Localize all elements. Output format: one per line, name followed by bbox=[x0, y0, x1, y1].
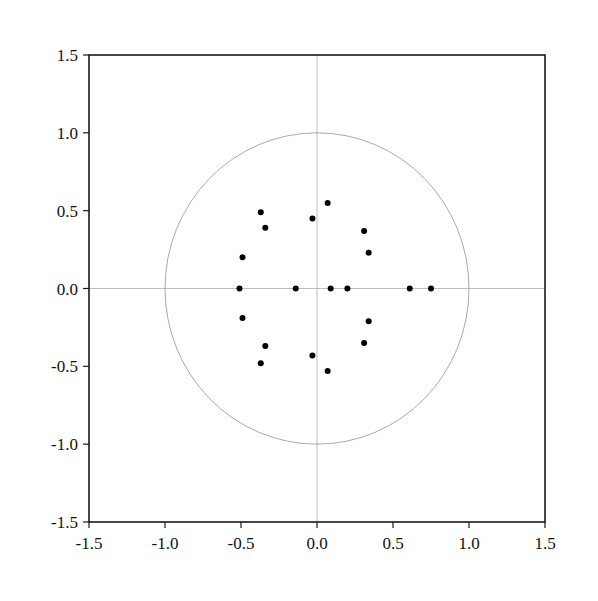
x-tick-label: 0.0 bbox=[306, 534, 327, 553]
y-tick-label: 1.5 bbox=[57, 46, 78, 65]
data-point bbox=[366, 250, 372, 256]
data-point bbox=[344, 286, 350, 292]
x-tick-label: 1.5 bbox=[534, 534, 555, 553]
data-point bbox=[258, 360, 264, 366]
data-point bbox=[407, 286, 413, 292]
data-points bbox=[236, 200, 434, 374]
data-point bbox=[262, 343, 268, 349]
data-point bbox=[361, 340, 367, 346]
x-tick-label: 1.0 bbox=[458, 534, 479, 553]
data-point bbox=[428, 286, 434, 292]
x-tick-label: 0.5 bbox=[382, 534, 403, 553]
data-point bbox=[262, 225, 268, 231]
y-tick-label: -1.0 bbox=[51, 435, 78, 454]
data-point bbox=[240, 315, 246, 321]
data-point bbox=[293, 286, 299, 292]
x-tick-label: -0.5 bbox=[228, 534, 255, 553]
data-point bbox=[325, 368, 331, 374]
y-tick-label: -1.5 bbox=[51, 513, 78, 532]
x-tick-label: -1.5 bbox=[76, 534, 103, 553]
y-tick-label: 1.0 bbox=[57, 124, 78, 143]
x-tick-label: -1.0 bbox=[152, 534, 179, 553]
scatter-chart: -1.5-1.0-0.50.00.51.01.5 1.51.00.50.0-0.… bbox=[0, 0, 598, 601]
data-point bbox=[361, 228, 367, 234]
y-tick-label: 0.0 bbox=[57, 280, 78, 299]
y-axis-ticks: 1.51.00.50.0-0.5-1.0-1.5 bbox=[51, 46, 89, 532]
data-point bbox=[366, 318, 372, 324]
y-tick-label: 0.5 bbox=[57, 202, 78, 221]
data-point bbox=[325, 200, 331, 206]
data-point bbox=[240, 254, 246, 260]
y-tick-label: -0.5 bbox=[51, 357, 78, 376]
data-point bbox=[236, 286, 242, 292]
data-point bbox=[328, 286, 334, 292]
data-point bbox=[309, 215, 315, 221]
x-axis-ticks: -1.5-1.0-0.50.00.51.01.5 bbox=[76, 522, 556, 553]
zero-reference-lines bbox=[89, 55, 545, 522]
data-point bbox=[258, 209, 264, 215]
data-point bbox=[309, 352, 315, 358]
